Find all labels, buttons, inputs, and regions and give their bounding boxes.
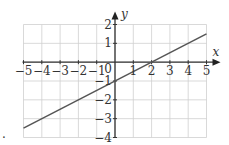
y-tick-label: 2 [104,18,112,32]
corner-mark: . [2,127,6,141]
x-tick-label: 2 [148,64,156,78]
y-tick-label: 1 [104,36,112,50]
x-tick-label: 4 [184,64,192,78]
y-tick-label: −1 [94,74,112,88]
x-axis-arrow-icon [213,59,221,66]
x-axis-label: x [213,45,220,59]
x-tick-label: 3 [166,64,174,78]
y-tick-label: −2 [94,93,112,107]
line-chart: −5−4−3−2−112345021−1−2−3−4xy. [0,0,229,144]
y-axis-arrow-icon [112,12,119,20]
y-axis-label: y [120,7,128,21]
x-tick-label: −3 [51,64,69,78]
x-tick-label: −5 [15,64,33,78]
x-tick-label: 5 [203,64,211,78]
y-tick-label: −3 [94,112,112,126]
x-tick-label: −2 [70,64,88,78]
y-tick-label: −4 [94,131,112,145]
tick-labels: −5−4−3−2−112345021−1−2−3−4xy. [2,7,220,145]
x-tick-label: −4 [33,64,51,78]
x-tick-label: 1 [129,64,137,78]
